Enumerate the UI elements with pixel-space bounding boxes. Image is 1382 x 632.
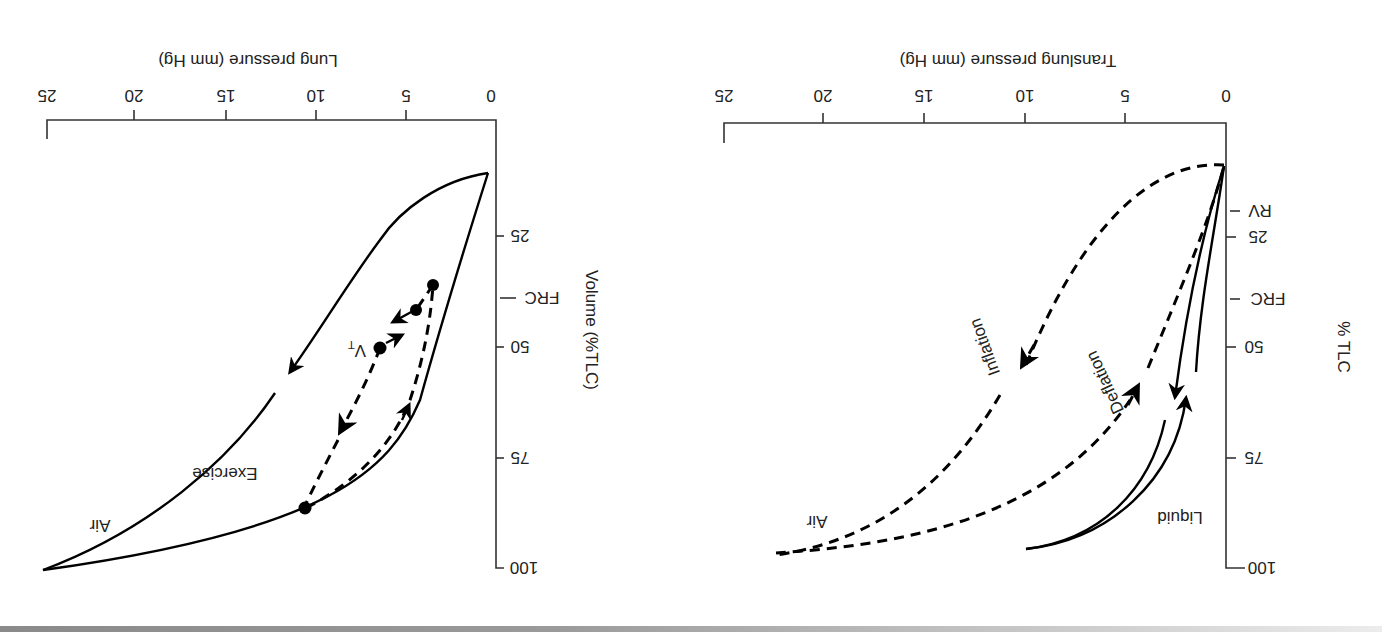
xtick-5: 5 (1120, 86, 1129, 105)
vt-arrow-up (386, 335, 402, 343)
ylabel-volume: Volume (%TLC) (582, 270, 601, 390)
ytick-50: 50 (1245, 337, 1264, 356)
label-deflation: Deflation (1082, 348, 1128, 417)
point-end-expiration (427, 279, 439, 291)
ytick-100: 100 (1248, 558, 1276, 577)
label-exercise: Exercise (192, 464, 257, 483)
x-ticks-translung (823, 113, 1125, 123)
label-vt: VT (348, 339, 366, 360)
air-inflation-curve (1024, 165, 1224, 370)
respiratory-pv-figure: 0 5 10 15 20 25 Translung pressure (mm H… (0, 0, 1382, 632)
marker-frc: FRC (1251, 289, 1286, 308)
point-vt (374, 342, 387, 355)
ylabel-tlc: % TLC (1334, 321, 1353, 373)
label-inflation: Inflation (966, 316, 1004, 378)
xtick-25-lung: 25 (38, 86, 57, 105)
xlabel-lung: Lung pressure (mm Hg) (158, 51, 338, 70)
point-frc (410, 304, 422, 316)
panel-translung: 0 5 10 15 20 25 Translung pressure (mm H… (715, 51, 1353, 577)
ytick-75: 75 (1245, 448, 1264, 467)
xtick-15-lung: 15 (217, 86, 236, 105)
xtick-5-lung: 5 (401, 86, 410, 105)
label-vt-sub: T (348, 339, 355, 351)
label-liquid: Liquid (1157, 508, 1202, 527)
panel-lung-pressure: 0 5 10 15 20 25 Lung pressure (mm Hg) 25… (38, 51, 601, 577)
ytick-25-lung: 25 (511, 226, 530, 245)
xtick-20-lung: 20 (125, 86, 144, 105)
ytick-75-lung: 75 (511, 448, 530, 467)
air-deflation-upper (1148, 166, 1224, 368)
point-exercise (299, 502, 312, 515)
xtick-0: 0 (1221, 86, 1230, 105)
liquid-inflation-upper (1196, 166, 1224, 372)
xtick-20: 20 (814, 86, 833, 105)
air-deflation-arrow (1128, 386, 1138, 405)
xtick-10-lung: 10 (307, 86, 326, 105)
marker-frc-lung: FRC (525, 288, 560, 307)
x-ticks-lung (134, 110, 406, 120)
liquid-deflation-lower (1026, 420, 1165, 549)
label-air-translung: Air (806, 512, 827, 531)
marker-rv: RV (1248, 201, 1272, 220)
y-ticks-translung (1226, 211, 1240, 458)
air-deflation-curve (776, 400, 1130, 553)
xtick-25: 25 (715, 86, 734, 105)
vt-arrow-down (393, 311, 413, 322)
label-air-lung: Air (89, 516, 110, 535)
label-vt-main: V (354, 341, 366, 360)
xtick-0-lung: 0 (486, 86, 495, 105)
bottom-border-strip (0, 626, 1382, 632)
xlabel-translung: Translung pressure (mm Hg) (900, 51, 1117, 70)
air-loop-right-branch (43, 173, 488, 570)
ytick-100-lung: 100 (510, 558, 538, 577)
ytick-25: 25 (1249, 227, 1268, 246)
xtick-15: 15 (915, 86, 934, 105)
ytick-50-lung: 50 (511, 337, 530, 356)
xtick-10: 10 (1016, 86, 1035, 105)
exercise-loop-to-point (304, 440, 338, 508)
